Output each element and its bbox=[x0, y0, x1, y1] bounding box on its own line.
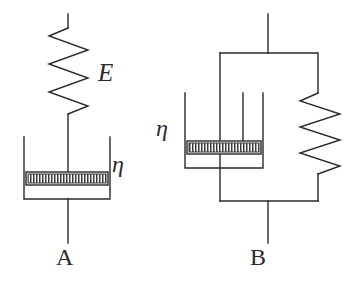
model-b-viscosity-label: η bbox=[156, 116, 168, 140]
model-a-dashpot-cup bbox=[24, 137, 110, 199]
models-drawing bbox=[0, 0, 359, 286]
model-b-dashpot-cup bbox=[185, 93, 263, 168]
spring-modulus-label: E bbox=[98, 60, 113, 85]
model-a-caption: A bbox=[56, 245, 73, 269]
model-b-spring bbox=[300, 93, 340, 174]
model-b-group bbox=[185, 14, 340, 243]
model-a-viscosity-label: η bbox=[112, 152, 124, 176]
model-b-piston-hatch bbox=[189, 143, 259, 152]
model-a-spring bbox=[49, 28, 88, 114]
model-a-group bbox=[24, 14, 110, 243]
model-a-piston-hatch bbox=[28, 174, 106, 183]
viscoelastic-models-figure: E η η A B bbox=[0, 0, 359, 286]
model-b-frame bbox=[220, 53, 318, 93]
model-b-caption: B bbox=[250, 245, 266, 269]
